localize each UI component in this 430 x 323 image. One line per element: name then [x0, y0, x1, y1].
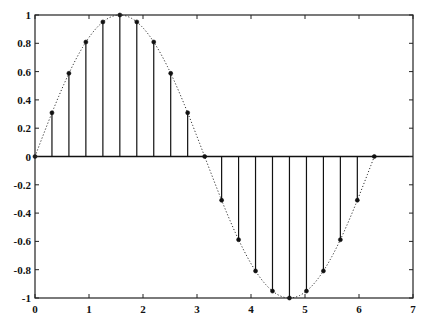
stem-marker: [237, 238, 241, 242]
x-tick-label: 1: [86, 303, 92, 315]
y-tick-label: -1: [22, 292, 31, 304]
stem-marker: [186, 111, 190, 115]
stem-marker: [321, 269, 325, 273]
stem-marker: [50, 111, 54, 115]
stem-marker: [101, 20, 105, 24]
stem-marker: [203, 155, 207, 159]
x-axis-ticks: 01234567: [32, 15, 416, 315]
x-tick-label: 4: [248, 303, 254, 315]
y-tick-label: 1: [26, 9, 32, 21]
y-tick-label: -0.6: [14, 235, 32, 247]
stem-marker: [304, 289, 308, 293]
y-tick-label: -0.2: [14, 179, 32, 191]
stem-marker: [220, 198, 224, 202]
stem-marker: [152, 40, 156, 44]
x-tick-label: 7: [410, 303, 416, 315]
y-tick-label: 0.4: [17, 94, 31, 106]
y-tick-label: 0.6: [17, 66, 31, 78]
y-tick-label: -0.4: [14, 207, 32, 219]
x-tick-label: 6: [356, 303, 362, 315]
stem-marker: [84, 40, 88, 44]
x-tick-label: 2: [140, 303, 146, 315]
x-tick-label: 0: [32, 303, 38, 315]
stem-plot: 01234567 -1-0.8-0.6-0.4-0.200.20.40.60.8…: [0, 0, 430, 323]
y-tick-label: 0: [26, 151, 32, 163]
y-tick-label: -0.8: [14, 264, 32, 276]
stem-marker: [372, 155, 376, 159]
x-tick-label: 5: [302, 303, 308, 315]
stem-marker: [67, 71, 71, 75]
stem-marker: [270, 289, 274, 293]
x-tick-label: 3: [194, 303, 200, 315]
y-tick-label: 0.8: [17, 37, 31, 49]
stem-marker: [355, 198, 359, 202]
stem-marker: [338, 238, 342, 242]
stem-marker: [169, 71, 173, 75]
y-tick-label: 0.2: [17, 122, 31, 134]
stem-marker: [135, 20, 139, 24]
stem-marker: [254, 269, 258, 273]
